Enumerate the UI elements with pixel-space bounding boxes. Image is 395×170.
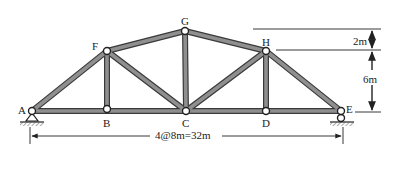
- member-GC: [185, 31, 186, 111]
- node-label-B: B: [103, 118, 110, 129]
- joint-C: [183, 108, 190, 115]
- node-label-E: E: [346, 104, 353, 115]
- span-label: 4@8m=32m: [155, 130, 210, 141]
- joint-B: [104, 106, 111, 113]
- truss-drawing: [0, 0, 395, 170]
- node-label-D: D: [262, 118, 270, 129]
- upper-rise-label: 2m: [353, 36, 367, 47]
- joint-F: [104, 48, 111, 55]
- member-FC: [107, 51, 186, 111]
- member-GH: [185, 31, 266, 51]
- truss-diagram: A B C D E F G H 2m 6m 4@8m=32m: [0, 0, 395, 170]
- node-label-F: F: [92, 41, 98, 52]
- joint-G: [182, 28, 189, 35]
- node-label-A: A: [18, 105, 26, 116]
- member-HC: [186, 51, 266, 111]
- joint-D: [263, 108, 270, 115]
- node-label-C: C: [182, 118, 189, 129]
- joint-H: [263, 48, 270, 55]
- member-FG: [107, 31, 185, 51]
- joint-A: [29, 108, 36, 115]
- member-AF: [32, 51, 107, 111]
- joint-E: [338, 108, 345, 115]
- member-HE: [266, 51, 341, 111]
- roller-support-icon: [330, 115, 354, 127]
- node-label-H: H: [262, 37, 270, 48]
- lower-rise-label: 6m: [362, 74, 378, 85]
- node-label-G: G: [181, 16, 189, 27]
